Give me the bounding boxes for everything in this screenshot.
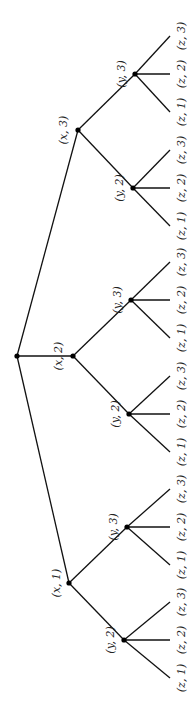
node-x3y3 — [132, 71, 137, 76]
leaf-label: (z, 3) — [175, 248, 188, 276]
node-x2y2 — [126, 411, 131, 416]
node-label-x2y3: (y, 3) — [111, 286, 124, 313]
leaf-label: (z, 3) — [175, 22, 188, 50]
leaf-label: (z, 2) — [175, 626, 188, 654]
node-x2 — [70, 353, 75, 358]
edge-x2y2-leaf-8 — [129, 376, 170, 414]
leaf-label: (z, 3) — [175, 136, 188, 164]
node-label-x2y2: (y, 2) — [109, 400, 122, 427]
leaf-label: (z, 1) — [175, 551, 188, 579]
leaf-label: (z, 3) — [175, 475, 188, 503]
tree-edges — [17, 36, 170, 678]
edge-x1y3-leaf-3 — [127, 527, 170, 565]
leaf-label: (z, 1) — [175, 664, 188, 692]
node-label-x2: (x, 2) — [52, 342, 65, 371]
leaf-label: (z, 1) — [175, 438, 188, 466]
leaf-label: (z, 3) — [175, 588, 188, 616]
edge-root-x3 — [17, 130, 78, 356]
node-label-x3y2: (y, 2) — [113, 174, 126, 201]
leaf-label: (z, 1) — [175, 212, 188, 240]
node-x1y2 — [121, 637, 126, 642]
leaf-label: (z, 1) — [175, 98, 188, 126]
node-x2y3 — [128, 297, 133, 302]
tree-nodes — [14, 71, 137, 642]
edge-x2y3-leaf-9 — [131, 300, 170, 338]
edge-root-x1 — [17, 356, 69, 583]
node-label-x1y3: (y, 3) — [107, 513, 120, 540]
edge-x1y3-leaf-5 — [127, 489, 170, 527]
node-x3y2 — [130, 185, 135, 190]
leaf-label: (z, 2) — [175, 400, 188, 428]
leaf-label: (z, 2) — [175, 286, 188, 314]
edge-x1y2-leaf-0 — [124, 640, 170, 678]
node-x1 — [66, 580, 71, 585]
edge-x3y2-leaf-14 — [133, 150, 170, 188]
edge-x2y3-leaf-11 — [131, 262, 170, 300]
tree-labels: (x, 1)(x, 2)(x, 3)(y, 2)(y, 3)(y, 2)(y, … — [50, 22, 188, 692]
edge-x3y2-leaf-12 — [133, 188, 170, 226]
leaf-label: (z, 2) — [175, 174, 188, 202]
leaf-label: (z, 2) — [175, 513, 188, 541]
edge-x1y2-leaf-2 — [124, 602, 170, 640]
leaf-label: (z, 3) — [175, 362, 188, 390]
root-node — [14, 353, 19, 358]
node-label-x1: (x, 1) — [50, 569, 63, 598]
node-x1y3 — [124, 524, 129, 529]
edge-x3y3-leaf-17 — [135, 36, 170, 74]
node-label-x3y3: (y, 3) — [115, 60, 128, 87]
edge-x3y3-leaf-15 — [135, 74, 170, 112]
tree-diagram: (x, 1)(x, 2)(x, 3)(y, 2)(y, 3)(y, 2)(y, … — [0, 0, 192, 713]
node-x3 — [75, 127, 80, 132]
node-label-x3: (x, 3) — [57, 116, 70, 145]
leaf-label: (z, 2) — [175, 60, 188, 88]
tree-canvas: (x, 1)(x, 2)(x, 3)(y, 2)(y, 3)(y, 2)(y, … — [0, 0, 192, 713]
leaf-label: (z, 1) — [175, 324, 188, 352]
node-label-x1y2: (y, 2) — [104, 626, 117, 653]
edge-x2y2-leaf-6 — [129, 414, 170, 452]
